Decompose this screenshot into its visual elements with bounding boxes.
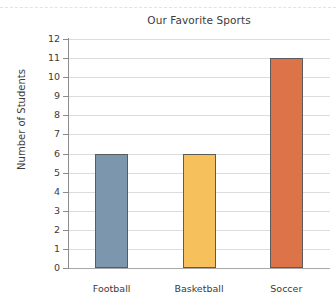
y-tick-label-3: 3 bbox=[20, 206, 60, 216]
y-axis-tick-labels: 0123456789101112 bbox=[18, 0, 60, 305]
plot-area bbox=[68, 39, 330, 268]
chart-title: Our Favorite Sports bbox=[68, 14, 330, 26]
tick-mark-3 bbox=[63, 211, 69, 212]
y-tick-label-1: 1 bbox=[20, 244, 60, 254]
y-tick-label-4: 4 bbox=[20, 187, 60, 197]
tick-mark-5 bbox=[63, 173, 69, 174]
y-tick-label-7: 7 bbox=[20, 129, 60, 139]
tick-mark-0 bbox=[63, 268, 69, 269]
bar-football bbox=[95, 154, 128, 269]
y-tick-label-2: 2 bbox=[20, 225, 60, 235]
y-tick-label-12: 12 bbox=[20, 34, 60, 44]
y-tick-label-5: 5 bbox=[20, 168, 60, 178]
x-label-football: Football bbox=[62, 283, 162, 294]
tick-mark-12 bbox=[63, 39, 69, 40]
bar-chart-figure: Our Favorite Sports Number of Students 0… bbox=[0, 0, 336, 305]
tick-mark-1 bbox=[63, 249, 69, 250]
y-tick-label-8: 8 bbox=[20, 110, 60, 120]
bar-basketball bbox=[183, 154, 216, 269]
tick-mark-4 bbox=[63, 192, 69, 193]
tick-mark-9 bbox=[63, 96, 69, 97]
tick-mark-6 bbox=[63, 154, 69, 155]
x-label-soccer: Soccer bbox=[236, 283, 336, 294]
tick-mark-8 bbox=[63, 115, 69, 116]
gridline-12 bbox=[68, 39, 330, 40]
x-label-basketball: Basketball bbox=[149, 283, 249, 294]
tick-mark-7 bbox=[63, 134, 69, 135]
y-tick-label-6: 6 bbox=[20, 149, 60, 159]
y-tick-label-9: 9 bbox=[20, 91, 60, 101]
tick-mark-11 bbox=[63, 58, 69, 59]
y-tick-label-10: 10 bbox=[20, 72, 60, 82]
y-tick-label-0: 0 bbox=[20, 263, 60, 273]
tick-mark-10 bbox=[63, 77, 69, 78]
bar-soccer bbox=[270, 58, 303, 268]
tick-mark-2 bbox=[63, 230, 69, 231]
gridline-0 bbox=[68, 268, 330, 269]
y-tick-label-11: 11 bbox=[20, 53, 60, 63]
